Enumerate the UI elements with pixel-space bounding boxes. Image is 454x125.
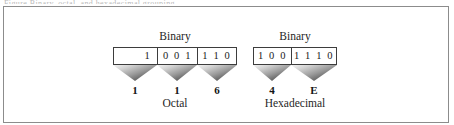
funnel-triangle-octal-2 — [197, 65, 237, 81]
octal-digit-1: 1 — [157, 84, 197, 97]
figure-root: Figure Binary, octal, and hexadecimal gr… — [0, 0, 454, 125]
hex-binary-label: Binary — [253, 30, 337, 43]
octal-funnels — [113, 65, 237, 81]
octal-digit-0: 1 — [113, 84, 157, 97]
octal-binary-cell-1: 0 0 1 — [157, 48, 196, 64]
octal-binary-cell-2: 1 1 0 — [197, 48, 236, 64]
hex-digit-1: E — [291, 84, 337, 97]
octal-binary-cell-0: 1 — [114, 48, 157, 64]
octal-label: Octal — [113, 97, 237, 110]
funnel-triangle-octal-0 — [113, 65, 157, 81]
funnel-triangle-octal-1 — [157, 65, 197, 81]
hex-digit-0: 4 — [253, 84, 291, 97]
hex-binary-boxes: 1 0 0 1 1 1 0 — [253, 47, 337, 65]
caption-sliver-cutoff: Figure Binary, octal, and hexadecimal gr… — [4, 0, 434, 4]
hex-binary-cell-1: 1 1 1 0 — [291, 48, 336, 64]
octal-digit-2: 6 — [197, 84, 237, 97]
octal-binary-boxes: 1 0 0 1 1 1 0 — [113, 47, 237, 65]
funnel-triangle-hex-1 — [291, 65, 337, 81]
funnel-triangle-hex-0 — [253, 65, 291, 81]
hex-funnels — [253, 65, 337, 81]
octal-binary-label: Binary — [113, 30, 237, 43]
hex-binary-cell-0: 1 0 0 — [254, 48, 291, 64]
hexadecimal-label: Hexadecimal — [253, 97, 337, 110]
